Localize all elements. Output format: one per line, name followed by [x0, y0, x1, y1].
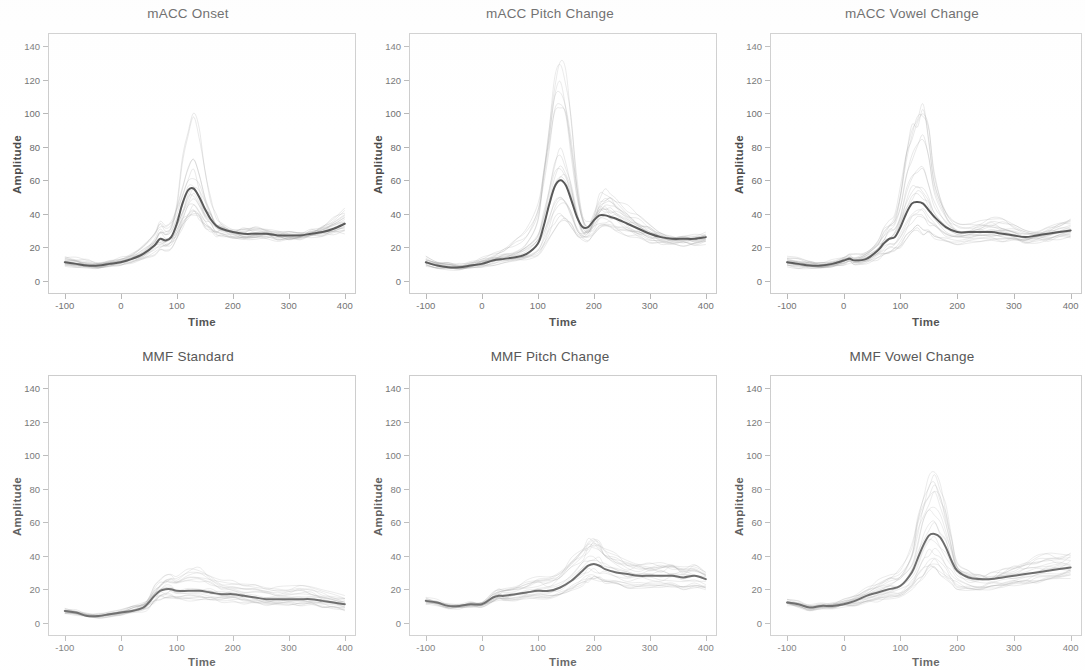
- individual-trace: [426, 541, 706, 606]
- panel-title-mmf-pitch-change: MMF Pitch Change: [380, 349, 720, 364]
- individual-trace: [426, 218, 706, 268]
- y-tick-mark: [765, 422, 770, 423]
- y-tick-mark: [43, 80, 48, 81]
- y-tick-label: 80: [738, 141, 762, 152]
- individual-trace: [426, 198, 706, 269]
- x-tick-label: 200: [586, 642, 602, 653]
- y-tick-mark: [404, 46, 409, 47]
- x-tick-label: 400: [698, 642, 714, 653]
- waveform-canvas-mmf-vowel-change: [770, 375, 1082, 636]
- y-tick-label: 60: [377, 175, 401, 186]
- y-tick-label: 80: [16, 483, 40, 494]
- x-axis-label-macc-vowel-change: Time: [770, 316, 1082, 328]
- y-tick-mark: [404, 489, 409, 490]
- individual-trace: [787, 491, 1071, 606]
- y-tick-mark: [43, 623, 48, 624]
- x-tick-label: 200: [225, 300, 241, 311]
- waveform-canvas-mmf-standard: [48, 375, 356, 636]
- x-tick-mark: [957, 636, 958, 641]
- y-tick-mark: [404, 80, 409, 81]
- x-tick-mark: [1071, 294, 1072, 299]
- y-tick-label: 0: [16, 275, 40, 286]
- y-tick-mark: [765, 388, 770, 389]
- individual-trace: [426, 568, 706, 607]
- x-tick-mark: [787, 636, 788, 641]
- y-tick-mark: [43, 422, 48, 423]
- x-tick-mark: [594, 636, 595, 641]
- x-tick-label: 0: [841, 642, 846, 653]
- x-tick-label: 0: [479, 300, 484, 311]
- x-tick-mark: [650, 294, 651, 299]
- y-tick-mark: [43, 489, 48, 490]
- x-tick-label: -100: [55, 642, 74, 653]
- y-tick-mark: [43, 180, 48, 181]
- y-tick-mark: [404, 556, 409, 557]
- x-tick-mark: [426, 294, 427, 299]
- y-tick-mark: [43, 522, 48, 523]
- individual-trace: [787, 482, 1071, 608]
- x-tick-label: 100: [169, 642, 185, 653]
- x-tick-label: 300: [281, 642, 297, 653]
- individual-trace: [65, 590, 345, 617]
- x-tick-label: 300: [642, 300, 658, 311]
- y-tick-label: 60: [377, 517, 401, 528]
- x-tick-label: 0: [479, 642, 484, 653]
- panel-title-mmf-standard: MMF Standard: [18, 349, 358, 364]
- x-tick-mark: [289, 636, 290, 641]
- y-tick-label: 80: [16, 141, 40, 152]
- x-tick-label: 200: [225, 642, 241, 653]
- y-tick-label: 20: [377, 242, 401, 253]
- y-tick-label: 40: [16, 208, 40, 219]
- y-tick-label: 60: [738, 175, 762, 186]
- y-tick-mark: [765, 147, 770, 148]
- individual-trace: [787, 135, 1071, 264]
- individual-trace: [65, 187, 345, 267]
- y-tick-mark: [43, 589, 48, 590]
- y-tick-label: 60: [16, 175, 40, 186]
- y-tick-mark: [43, 247, 48, 248]
- y-tick-mark: [43, 46, 48, 47]
- individual-trace: [65, 573, 345, 616]
- x-tick-label: 300: [281, 300, 297, 311]
- individual-trace: [65, 195, 345, 266]
- individual-trace: [787, 472, 1071, 605]
- x-tick-mark: [233, 636, 234, 641]
- y-tick-mark: [765, 623, 770, 624]
- y-tick-label: 100: [738, 108, 762, 119]
- y-tick-label: 0: [377, 617, 401, 628]
- y-tick-label: 80: [377, 483, 401, 494]
- y-tick-label: 100: [738, 450, 762, 461]
- x-tick-mark: [957, 294, 958, 299]
- y-tick-mark: [43, 214, 48, 215]
- individual-trace: [426, 557, 706, 607]
- x-tick-mark: [1071, 636, 1072, 641]
- plot-area-macc-onset: [48, 33, 356, 294]
- y-tick-mark: [404, 113, 409, 114]
- x-tick-mark: [594, 294, 595, 299]
- plot-area-mmf-standard: [48, 375, 356, 636]
- waveform-canvas-macc-onset: [48, 33, 356, 294]
- x-tick-mark: [426, 636, 427, 641]
- x-tick-mark: [1014, 636, 1015, 641]
- y-tick-label: 20: [16, 584, 40, 595]
- y-tick-label: 40: [16, 550, 40, 561]
- y-tick-label: 100: [16, 450, 40, 461]
- individual-trace: [787, 549, 1071, 611]
- panel-title-macc-vowel-change: mACC Vowel Change: [742, 6, 1082, 21]
- y-tick-mark: [404, 214, 409, 215]
- individual-trace: [787, 485, 1071, 606]
- y-tick-mark: [765, 489, 770, 490]
- y-tick-label: 0: [738, 275, 762, 286]
- y-tick-mark: [404, 623, 409, 624]
- y-tick-mark: [43, 113, 48, 114]
- y-tick-mark: [765, 180, 770, 181]
- y-tick-label: 140: [377, 383, 401, 394]
- x-tick-mark: [844, 294, 845, 299]
- x-tick-mark: [1014, 294, 1015, 299]
- plot-area-macc-vowel-change: [770, 33, 1082, 294]
- individual-trace: [787, 114, 1071, 264]
- x-tick-label: -100: [778, 642, 797, 653]
- x-tick-label: 0: [118, 300, 123, 311]
- individual-trace: [426, 148, 706, 266]
- y-tick-label: 40: [377, 550, 401, 561]
